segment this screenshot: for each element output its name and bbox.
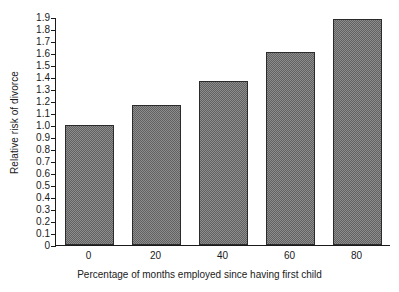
- x-tick-label: 80: [351, 250, 362, 262]
- plot-area: [55, 18, 390, 246]
- y-tick-label: 0.1: [36, 229, 50, 239]
- x-tick-label: 0: [86, 250, 92, 262]
- y-tick-label: 1.4: [36, 73, 50, 83]
- y-tick-label: 1.3: [36, 85, 50, 95]
- x-tick-label: 40: [217, 250, 228, 262]
- bar: [132, 105, 182, 245]
- y-axis-tick-labels: 00.10.20.30.40.50.60.70.80.91.01.11.21.3…: [22, 18, 50, 246]
- y-tick-mark: [51, 186, 55, 187]
- bar-chart-figure: Relative risk of divorce 00.10.20.30.40.…: [0, 0, 399, 292]
- y-tick-mark: [51, 174, 55, 175]
- y-tick-mark: [51, 30, 55, 31]
- y-tick-mark: [51, 126, 55, 127]
- y-tick-mark: [51, 42, 55, 43]
- y-tick-label: 1.1: [36, 109, 50, 119]
- y-axis-spine-cap: [51, 246, 56, 247]
- y-tick-label: 1.2: [36, 97, 50, 107]
- y-tick-label: 0.5: [36, 181, 50, 191]
- x-axis-title: Percentage of months employed since havi…: [0, 269, 399, 280]
- y-tick-mark: [51, 198, 55, 199]
- y-tick-label: 0.2: [36, 217, 50, 227]
- y-tick-label: 0.7: [36, 157, 50, 167]
- y-tick-mark: [51, 102, 55, 103]
- y-tick-label: 0.3: [36, 205, 50, 215]
- y-tick-mark: [51, 234, 55, 235]
- y-tick-label: 1.0: [36, 121, 50, 131]
- y-tick-mark: [51, 150, 55, 151]
- y-tick-label: 1.6: [36, 49, 50, 59]
- y-tick-label: 1.7: [36, 37, 50, 47]
- y-tick-mark: [51, 138, 55, 139]
- y-tick-label: 0.6: [36, 169, 50, 179]
- x-tick-label: 60: [284, 250, 295, 262]
- y-tick-mark: [51, 90, 55, 91]
- bar: [333, 19, 383, 245]
- y-tick-label: 0.4: [36, 193, 50, 203]
- y-tick-mark: [51, 66, 55, 67]
- y-axis-title: Relative risk of divorce: [4, 0, 24, 245]
- x-axis-line: [55, 245, 390, 246]
- y-tick-label: 0.9: [36, 133, 50, 143]
- y-tick-mark: [51, 78, 55, 79]
- y-axis-title-text: Relative risk of divorce: [9, 71, 20, 174]
- bar: [65, 125, 115, 245]
- y-tick-label: 1.9: [36, 13, 50, 23]
- y-tick-label: 1.5: [36, 61, 50, 71]
- y-tick-mark: [51, 114, 55, 115]
- y-tick-label: 0.8: [36, 145, 50, 155]
- x-axis-tick-labels: 020406080: [55, 250, 390, 264]
- y-tick-mark: [51, 162, 55, 163]
- y-tick-mark: [51, 54, 55, 55]
- y-tick-label: 0: [44, 241, 50, 251]
- bar: [266, 52, 316, 245]
- bar-series: [56, 18, 390, 245]
- y-tick-label: 1.8: [36, 25, 50, 35]
- y-tick-mark: [51, 210, 55, 211]
- x-tick-label: 20: [150, 250, 161, 262]
- bar: [199, 81, 249, 245]
- y-tick-mark: [51, 222, 55, 223]
